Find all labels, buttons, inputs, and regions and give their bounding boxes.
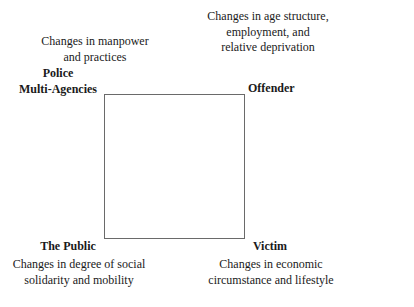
offender-description-line-2: employment, and bbox=[200, 25, 336, 41]
public-description-line-1: Changes in degree of social bbox=[10, 257, 148, 273]
offender-description-line-1: Changes in age structure, bbox=[200, 9, 336, 25]
public-label: The Public bbox=[38, 239, 98, 255]
public-description: Changes in degree of social solidarity a… bbox=[10, 257, 148, 288]
victim-description: Changes in economic circumstance and lif… bbox=[207, 257, 335, 288]
framework-square bbox=[104, 94, 245, 239]
police-description-line-2: and practices bbox=[14, 50, 176, 66]
victim-label: Victim bbox=[250, 239, 290, 255]
police-description-line-1: Changes in manpower bbox=[14, 34, 176, 50]
public-description-line-2: solidarity and mobility bbox=[10, 273, 148, 289]
police-label: Police Multi-Agencies bbox=[14, 65, 102, 97]
offender-label: Offender bbox=[248, 81, 288, 97]
multi-agencies-label: Multi-Agencies bbox=[14, 81, 102, 97]
victim-description-line-2: circumstance and lifestyle bbox=[207, 273, 335, 289]
police-label-line-1: Police bbox=[14, 65, 102, 81]
victim-description-line-1: Changes in economic bbox=[207, 257, 335, 273]
offender-description-line-3: relative deprivation bbox=[200, 40, 336, 56]
police-description: Changes in manpower and practices bbox=[14, 34, 176, 65]
offender-description: Changes in age structure, employment, an… bbox=[200, 9, 336, 56]
